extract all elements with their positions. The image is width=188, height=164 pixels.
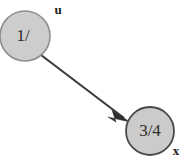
vertex-label-u: u	[54, 2, 61, 17]
edge-line	[41, 55, 124, 118]
node-x-value: 3/4	[139, 121, 161, 140]
edge-u-to-x[interactable]	[41, 55, 130, 122]
node-x[interactable]: 3/4	[126, 107, 174, 155]
node-u-value: 1/	[16, 26, 30, 45]
graph-diagram-canvas: 1/ 3/4 u x	[0, 0, 188, 164]
node-u[interactable]: 1/	[0, 11, 50, 61]
arrowhead-icon	[108, 110, 130, 122]
vertex-label-x: x	[173, 143, 180, 158]
graph-svg: 1/ 3/4 u x	[0, 0, 188, 164]
